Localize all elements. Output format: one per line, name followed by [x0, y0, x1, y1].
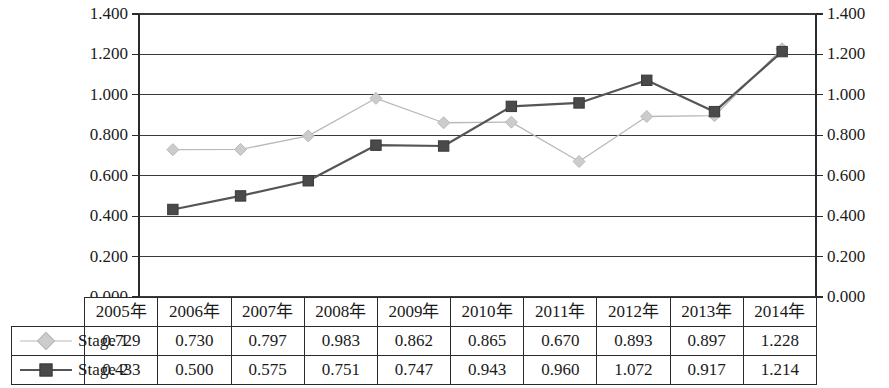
data-point-marker-diamond — [641, 110, 653, 122]
table-cell-value: 0.751 — [304, 356, 377, 385]
table-cell-value: 0.500 — [158, 356, 231, 385]
table-column-header: 2014年 — [743, 298, 816, 327]
data-point-marker-diamond — [235, 143, 247, 155]
table-cell-value: 0.897 — [670, 327, 743, 356]
data-point-marker-square — [506, 101, 516, 111]
data-point-marker-square — [168, 204, 178, 214]
table-column-header: 2005年 — [85, 298, 158, 327]
table-cell-value: 1.072 — [597, 356, 670, 385]
data-point-marker-diamond — [505, 116, 517, 128]
data-point-marker-diamond — [167, 144, 179, 156]
table-column-header: 2013年 — [670, 298, 743, 327]
data-point-marker-diamond — [438, 117, 450, 129]
legend-marker-icon — [18, 331, 74, 351]
data-point-marker-square — [777, 46, 787, 56]
table-cell-value: 0.865 — [451, 327, 524, 356]
table-column-header: 2006年 — [158, 298, 231, 327]
table-column-header: 2011年 — [524, 298, 597, 327]
legend-entry: Stage 2 — [12, 356, 85, 385]
data-point-marker-square — [574, 98, 584, 108]
series-line-stage-1 — [173, 49, 782, 162]
table-column-header: 2007年 — [231, 298, 304, 327]
table-column-header: 2012年 — [597, 298, 670, 327]
table-cell-value: 0.797 — [231, 327, 304, 356]
table-cell-value: 0.917 — [670, 356, 743, 385]
table-column-header: 2010年 — [451, 298, 524, 327]
data-point-marker-square — [709, 106, 719, 116]
data-point-marker-square — [371, 140, 381, 150]
table-cell-value: 0.960 — [524, 356, 597, 385]
data-point-marker-square — [642, 75, 652, 85]
data-point-marker-diamond — [573, 156, 585, 168]
data-point-marker-square — [235, 191, 245, 201]
table-cell-value: 0.943 — [451, 356, 524, 385]
data-table: 2005年2006年2007年2008年2009年2010年2011年2012年… — [11, 297, 817, 385]
table-cell-value: 0.575 — [231, 356, 304, 385]
legend-marker-icon — [18, 360, 74, 380]
series-line-stage-2 — [173, 52, 782, 210]
table-cell-value: 0.670 — [524, 327, 597, 356]
chart-figure: 1.4001.2001.0000.8000.6000.4000.2000.000… — [0, 0, 889, 388]
table-column-header: 2008年 — [304, 298, 377, 327]
table-header-row: 2005年2006年2007年2008年2009年2010年2011年2012年… — [12, 298, 817, 327]
table-row: Stage 10.7290.7300.7970.9830.8620.8650.6… — [12, 327, 817, 356]
table-cell-value: 1.214 — [743, 356, 816, 385]
table-cell-value: 0.983 — [304, 327, 377, 356]
table-cell-value: 0.893 — [597, 327, 670, 356]
data-point-marker-diamond — [302, 130, 314, 142]
data-point-marker-diamond — [370, 92, 382, 104]
data-point-marker-square — [438, 141, 448, 151]
plot-area — [0, 0, 889, 300]
table-cell-value: 1.228 — [743, 327, 816, 356]
table-row: Stage 20.4330.5000.5750.7510.7470.9430.9… — [12, 356, 817, 385]
table-column-header: 2009年 — [377, 298, 450, 327]
data-point-marker-square — [303, 176, 313, 186]
table-cell-value: 0.747 — [377, 356, 450, 385]
table-corner-cell — [12, 298, 85, 327]
table-cell-value: 0.730 — [158, 327, 231, 356]
legend-entry: Stage 1 — [12, 327, 85, 356]
table-cell-value: 0.862 — [377, 327, 450, 356]
